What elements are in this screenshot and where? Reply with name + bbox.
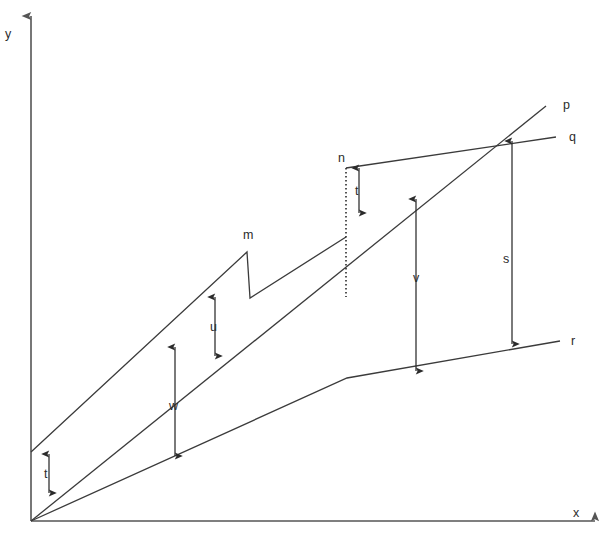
measure-label-t-lower: t [44, 467, 48, 481]
feature-label-n: n [338, 151, 345, 165]
x-axis-label: x [573, 506, 580, 520]
feature-label-m: m [243, 228, 253, 242]
axis-group [31, 16, 595, 521]
y-axis-label: y [5, 27, 12, 41]
curve-label-q: q [569, 130, 576, 144]
measure-label-t-upper: t [355, 184, 359, 198]
measure-label-w: w [168, 399, 179, 413]
curve-q-after-jump [346, 137, 556, 168]
measure-label-s: s [503, 252, 509, 266]
curve-q [31, 237, 346, 452]
measure-arrow-group [49, 141, 512, 493]
curve-label-p: p [563, 98, 570, 112]
measure-label-u: u [210, 320, 217, 334]
curve-r [31, 341, 560, 521]
measure-label-v: v [413, 271, 420, 285]
diagram-svg: y x p q r m n t t u v w s [0, 0, 609, 540]
diagram-canvas: y x p q r m n t t u v w s [0, 0, 609, 540]
curve-p [31, 106, 546, 521]
curve-label-r: r [571, 334, 575, 348]
